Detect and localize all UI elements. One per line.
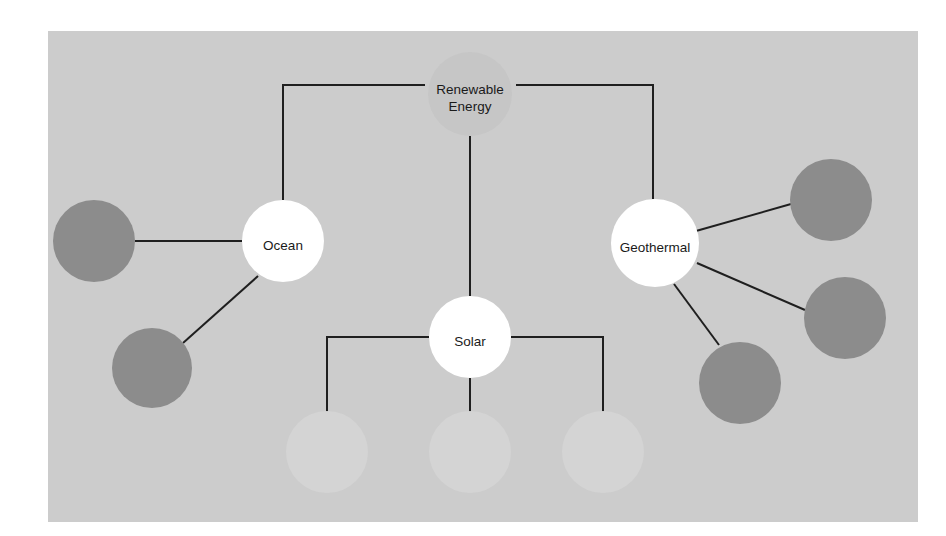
node-label-geothermal: Geothermal [620,239,691,254]
node-label-ocean: Ocean [263,237,303,252]
graph-edge [516,85,653,199]
graph-node-solar-leaf-1[interactable] [286,411,368,493]
graph-edge [327,337,429,413]
node-label-solar: Solar [454,333,486,348]
graph-node-solar-leaf-2[interactable] [429,411,511,493]
graph-node-geothermal-leaf-3[interactable] [699,342,781,424]
graph-edge [511,337,603,413]
graph-edge [283,85,425,200]
node-label-line: Solar [454,333,486,348]
graph-edge [674,284,719,345]
node-label-line: Ocean [263,237,303,252]
graph-node-solar-leaf-3[interactable] [562,411,644,493]
graph-edge [696,204,791,231]
graph-node-geothermal-leaf-2[interactable] [804,277,886,359]
graph-node-geothermal-leaf-1[interactable] [790,159,872,241]
node-label-line: Energy [449,99,492,114]
graph-edge [697,263,805,310]
node-label-line: Geothermal [620,239,691,254]
node-link-graph: RenewableEnergyOceanGeothermalSolar [0,0,946,536]
graph-node-ocean-leaf-2[interactable] [112,328,192,408]
node-label-line: Renewable [436,82,504,97]
graph-edge [183,276,258,343]
diagram-page: RenewableEnergyOceanGeothermalSolar [0,0,946,536]
graph-node-ocean-leaf-1[interactable] [53,200,135,282]
